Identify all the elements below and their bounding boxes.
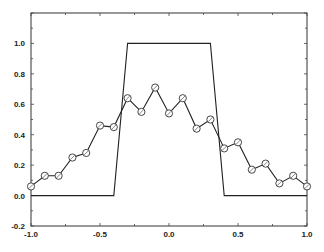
y-axis-tick-labels: -0.20.00.20.40.60.81.0 [11,39,25,231]
x-tick-label: 0.0 [163,230,175,239]
series-layer [27,43,310,195]
y-tick-label: 0.4 [14,131,26,140]
line-chart: -1.0-0.50.00.51.0 -0.20.00.20.40.60.81.0 [0,0,324,252]
plot-frame [31,13,307,226]
y-tick-label: 0.8 [14,70,26,79]
series-line [31,43,307,195]
y-tick-label: 0.6 [14,100,26,109]
series-line [31,88,307,187]
series-sampled-approximation [27,84,310,190]
y-tick-label: 0.2 [14,161,26,170]
x-tick-label: 0.5 [232,230,244,239]
x-tick-label: 1.0 [301,230,313,239]
x-axis-tick-labels: -1.0-0.50.00.51.0 [24,230,313,239]
axis-ticks [31,13,307,226]
x-tick-label: -0.5 [93,230,107,239]
y-tick-label: 1.0 [14,39,26,48]
x-tick-label: -1.0 [24,230,38,239]
y-tick-label: -0.2 [11,222,25,231]
series-rectangular-pulse [31,43,307,195]
y-tick-label: 0.0 [14,192,26,201]
